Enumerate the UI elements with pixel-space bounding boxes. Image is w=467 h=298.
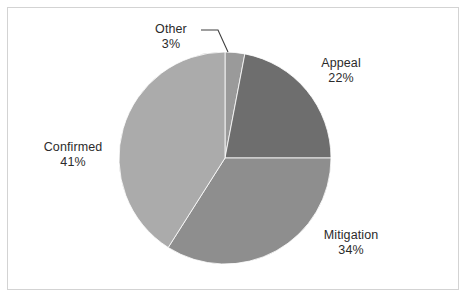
pie-label-mitigation: Mitigation 34% — [298, 228, 404, 258]
pie-label-mitigation-name: Mitigation — [298, 228, 404, 243]
pie-label-other-name: Other — [133, 22, 209, 37]
pie-label-other: Other 3% — [133, 22, 209, 52]
pie-label-confirmed-name: Confirmed — [20, 140, 126, 155]
pie-label-confirmed-value: 41% — [20, 155, 126, 170]
pie-label-appeal-value: 22% — [296, 71, 386, 86]
pie-label-appeal-name: Appeal — [296, 56, 386, 71]
chart-canvas: Other 3% Appeal 22% Confirmed 41% Mitiga… — [0, 0, 467, 298]
pie-label-confirmed: Confirmed 41% — [20, 140, 126, 170]
pie-label-mitigation-value: 34% — [298, 243, 404, 258]
pie-label-appeal: Appeal 22% — [296, 56, 386, 86]
pie-label-other-value: 3% — [133, 37, 209, 52]
